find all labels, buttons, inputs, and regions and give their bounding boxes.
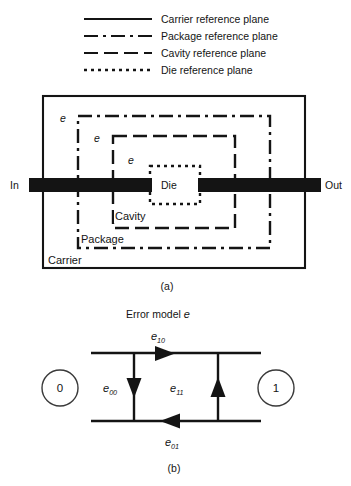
transmission-line-right: [198, 178, 321, 192]
error-label-middle: e: [94, 132, 100, 144]
panel-b-title-text: Error model: [126, 308, 184, 320]
panel-b-caption: (b): [168, 462, 181, 474]
panel-b-title-symbol: e: [184, 308, 190, 320]
legend-row-carrier: Carrier reference plane: [84, 13, 269, 25]
legend-label-die: Die reference plane: [161, 64, 253, 76]
carrier-label: Carrier: [48, 254, 82, 266]
technical-figure: Carrier reference plane Package referenc…: [0, 0, 351, 486]
legend-row-die: Die reference plane: [84, 64, 253, 76]
term-e01-sub: 01: [171, 442, 179, 451]
figure-root: Carrier reference plane Package referenc…: [0, 0, 351, 486]
port-out-label: Out: [325, 179, 342, 191]
cavity-label: Cavity: [115, 210, 146, 222]
panel-a-caption: (a): [161, 280, 174, 292]
legend-label-cavity: Cavity reference plane: [161, 47, 266, 59]
arrow-e10-icon: [155, 346, 175, 361]
term-e11-label: e11: [170, 382, 184, 397]
legend-label-carrier: Carrier reference plane: [161, 13, 269, 25]
error-label-outer: e: [60, 112, 66, 124]
node-1-label: 1: [273, 382, 279, 394]
legend-row-cavity: Cavity reference plane: [84, 47, 266, 59]
panel-b-title: Error model e: [126, 308, 190, 320]
arrow-e11-icon: [211, 377, 226, 397]
node-0-label: 0: [57, 382, 63, 394]
transmission-line-left: [29, 178, 152, 192]
term-e00-label: e00: [103, 382, 117, 397]
term-e00-sub: 00: [109, 388, 117, 397]
panel-a: In Out Die Cavity Package Carrier e e e …: [10, 96, 342, 292]
package-label: Package: [81, 233, 124, 245]
arrow-e01-icon: [160, 414, 180, 429]
term-e11-sub: 11: [176, 388, 183, 397]
die-label: Die: [161, 179, 177, 191]
term-e10-label: e10: [151, 330, 165, 345]
panel-b: Error model e 0 1 e10: [42, 308, 294, 474]
legend: Carrier reference plane Package referenc…: [84, 13, 278, 76]
arrow-e00-icon: [127, 378, 142, 398]
legend-label-package: Package reference plane: [161, 30, 278, 42]
port-in-label: In: [10, 179, 19, 191]
legend-row-package: Package reference plane: [84, 30, 278, 42]
term-e10-sub: 10: [157, 336, 165, 345]
term-e01-label: e01: [165, 436, 179, 451]
error-label-inner: e: [128, 154, 134, 166]
